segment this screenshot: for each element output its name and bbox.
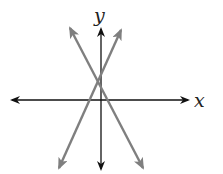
rising-line: [90, 30, 121, 99]
coordinate-diagram: x y: [0, 0, 223, 174]
rising-line-lower: [59, 99, 90, 168]
falling-line-lower: [107, 99, 143, 168]
y-axis-label: y: [93, 4, 105, 26]
x-axis-label: x: [194, 89, 205, 111]
